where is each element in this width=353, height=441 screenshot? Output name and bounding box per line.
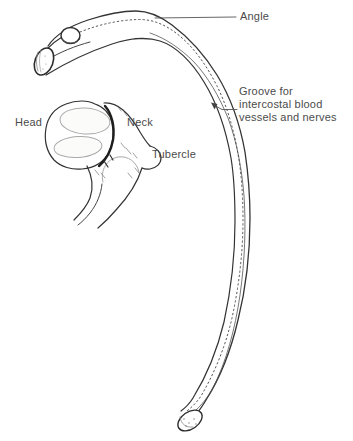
- underhead-hatch-1: [95, 170, 99, 175]
- sternal-end-dot-5: [195, 423, 196, 424]
- sternal-end-dot-2: [188, 422, 189, 423]
- underhead-hatch-2: [101, 173, 105, 178]
- rib-sternal-cut-end: [174, 406, 206, 435]
- head-label: Head: [15, 116, 42, 129]
- neck-label: Neck: [127, 116, 153, 129]
- sternal-end-dot-4: [185, 425, 186, 426]
- neck-hatch-4: [128, 173, 132, 178]
- angle-label: Angle: [240, 10, 269, 23]
- rib-mid-ridge-line: [150, 33, 245, 412]
- cut-surface-dot-2: [45, 63, 46, 64]
- sternal-end-dot-1: [183, 418, 184, 419]
- tubercle-label: Tubercle: [152, 148, 196, 161]
- leader-lines: [155, 17, 237, 110]
- sternal-end-dot-3: [193, 418, 194, 419]
- rib-inner-contour: [46, 39, 235, 411]
- angle-leader-line: [155, 17, 236, 18]
- figure-canvas: Angle Groove for intercostal blood vesse…: [0, 0, 353, 441]
- rib-illustration: [0, 0, 353, 441]
- groove-label: Groove for intercostal blood vessels and…: [239, 85, 351, 124]
- closeup-shaft-left-line: [74, 166, 92, 220]
- tubercle-facet-arc: [102, 157, 139, 182]
- neck-hatch-2: [126, 148, 131, 154]
- cut-surface-dot-1: [44, 55, 45, 56]
- rib-outer-contour: [48, 11, 250, 416]
- closeup-shaft-middle-line: [78, 184, 102, 225]
- neck-hatch-3: [133, 153, 137, 158]
- neck-hatch-1: [121, 143, 125, 148]
- main-rib-drawing: [31, 11, 250, 435]
- rib-head-cut-surface: [31, 45, 57, 77]
- cut-surface-dot-3: [42, 68, 43, 69]
